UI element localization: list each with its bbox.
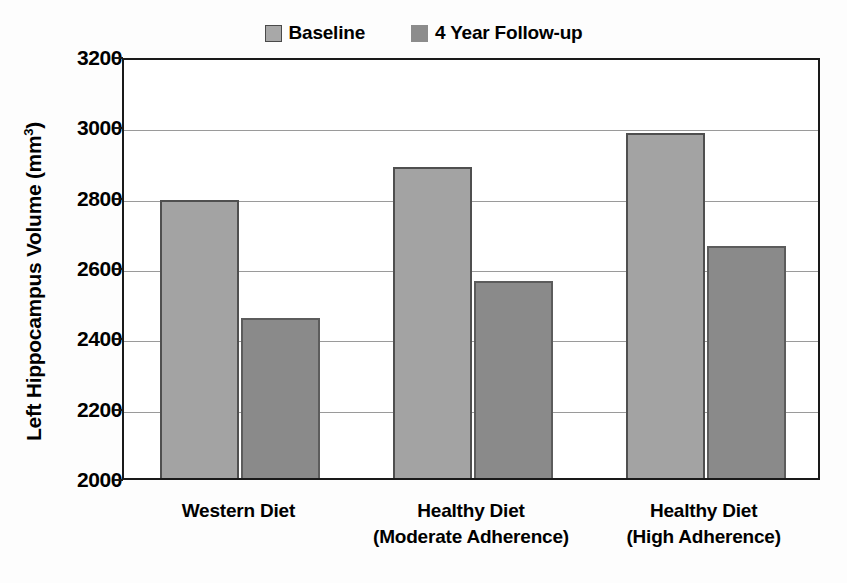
- x-tick-label-2: Healthy Diet(High Adherence): [554, 498, 847, 550]
- y-tick-label-2600: 2600: [32, 257, 122, 281]
- y-tick-label-3200: 3200: [32, 46, 122, 70]
- y-tick-label-2800: 2800: [32, 187, 122, 211]
- chart-legend: Baseline 4 Year Follow-up: [0, 22, 847, 44]
- legend-entry-baseline: Baseline: [265, 22, 366, 44]
- gridline-3000: [124, 130, 818, 131]
- y-axis: Left Hippocampus Volume (mm3) 3200300028…: [0, 0, 122, 583]
- x-tick-label-2-line-1: (High Adherence): [554, 524, 847, 550]
- legend-swatch-followup-icon: [411, 25, 428, 42]
- bar-followup-2: [707, 246, 786, 478]
- legend-label-baseline: Baseline: [289, 22, 366, 44]
- bar-followup-1: [474, 281, 553, 478]
- legend-label-followup: 4 Year Follow-up: [435, 22, 582, 44]
- bar-baseline-0: [160, 200, 239, 478]
- bar-chart: Baseline 4 Year Follow-up Left Hippocamp…: [0, 0, 847, 583]
- legend-swatch-baseline-icon: [265, 25, 282, 42]
- y-tick-label-2200: 2200: [32, 398, 122, 422]
- bar-followup-0: [241, 318, 320, 478]
- y-tick-label-3000: 3000: [32, 116, 122, 140]
- x-tick-label-2-line-0: Healthy Diet: [554, 498, 847, 524]
- bar-baseline-1: [393, 167, 472, 478]
- bar-baseline-2: [626, 133, 705, 478]
- legend-entry-followup: 4 Year Follow-up: [411, 22, 582, 44]
- y-tick-label-2000: 2000: [32, 468, 122, 492]
- y-tick-label-2400: 2400: [32, 327, 122, 351]
- y-axis-title-base: Left Hippocampus Volume (mm: [22, 136, 45, 441]
- plot-area: [122, 58, 820, 480]
